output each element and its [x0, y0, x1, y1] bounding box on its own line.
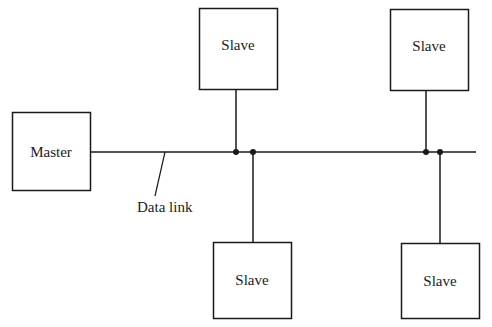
slave-bottom-right-label: Slave [423, 273, 457, 289]
master-node: Master [13, 113, 91, 191]
diagram-canvas: Master Data link Slave Slave Slave [0, 0, 492, 327]
slave-bottom-left-label: Slave [235, 272, 269, 288]
slave-top-right-label: Slave [412, 38, 446, 54]
junction-dot [423, 149, 429, 155]
slave-top-left-node: Slave [200, 9, 278, 156]
junction-dot [233, 149, 239, 155]
data-link-label: Data link [137, 199, 193, 215]
slave-top-left-label: Slave [221, 37, 255, 53]
master-label: Master [30, 144, 72, 160]
data-link-leader [155, 152, 165, 196]
slave-bottom-left-node: Slave [214, 149, 292, 319]
slave-bottom-right-node: Slave [402, 149, 480, 319]
slave-top-right-node: Slave [391, 10, 469, 156]
diagram-svg: Master Data link Slave Slave Slave [0, 0, 492, 327]
